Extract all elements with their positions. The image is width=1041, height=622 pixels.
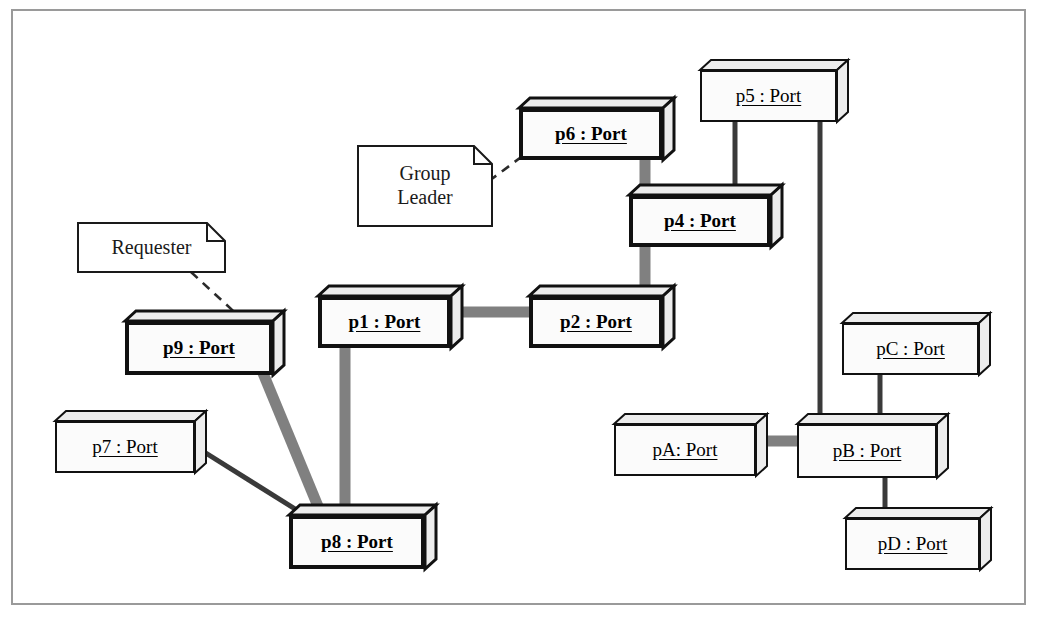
node-top-face-p6	[519, 98, 674, 108]
node-front-face-p2: p2 : Port	[529, 296, 663, 348]
note-requester[interactable]: Requester	[77, 222, 226, 273]
note-group-leader[interactable]: GroupLeader	[357, 145, 493, 227]
node-side-face-p7	[195, 411, 206, 473]
node-top-face-p9	[125, 311, 284, 321]
node-front-face-pA: pA: Port	[614, 424, 756, 476]
node-label-p2: p2 : Port	[560, 312, 632, 332]
node-top-face-pD	[845, 508, 991, 518]
node-top-face-pB	[797, 414, 948, 424]
node-side-face-p9	[273, 311, 284, 375]
node-side-face-pB	[937, 414, 948, 478]
node-front-face-p9: p9 : Port	[125, 321, 273, 375]
port-node-p5[interactable]: p5 : Port	[700, 60, 848, 122]
node-label-p9: p9 : Port	[163, 338, 235, 358]
node-label-p6: p6 : Port	[555, 124, 627, 144]
node-side-face-pC	[979, 313, 990, 375]
node-side-face-p6	[663, 98, 674, 160]
note-shape-group-leader	[357, 145, 493, 227]
node-front-face-p4: p4 : Port	[629, 195, 771, 247]
node-side-face-pA	[756, 414, 767, 476]
port-node-p7[interactable]: p7 : Port	[55, 411, 206, 473]
node-side-face-p8	[425, 505, 436, 569]
node-front-face-p6: p6 : Port	[519, 108, 663, 160]
node-top-face-p7	[55, 411, 206, 421]
port-node-p6[interactable]: p6 : Port	[519, 98, 674, 160]
node-top-face-p4	[629, 185, 782, 195]
node-top-face-pA	[614, 414, 767, 424]
node-label-p5: p5 : Port	[736, 86, 801, 106]
port-node-p1[interactable]: p1 : Port	[318, 286, 462, 348]
node-front-face-p5: p5 : Port	[700, 70, 837, 122]
note-body-requester	[78, 223, 225, 272]
node-label-pB: pB : Port	[833, 441, 902, 461]
node-front-face-p8: p8 : Port	[289, 515, 425, 569]
node-label-pD: pD : Port	[878, 534, 948, 554]
note-shape-requester	[77, 222, 226, 273]
node-side-face-p1	[451, 286, 462, 348]
node-label-pC: pC : Port	[876, 339, 945, 359]
node-label-p1: p1 : Port	[349, 312, 421, 332]
port-node-pC[interactable]: pC : Port	[842, 313, 990, 375]
port-node-p4[interactable]: p4 : Port	[629, 185, 782, 247]
node-side-face-p5	[837, 60, 848, 122]
node-label-p8: p8 : Port	[321, 532, 393, 552]
node-top-face-pC	[842, 313, 990, 323]
port-node-pD[interactable]: pD : Port	[845, 508, 991, 570]
node-front-face-pC: pC : Port	[842, 323, 979, 375]
node-side-face-p4	[771, 185, 782, 247]
node-side-face-p2	[663, 286, 674, 348]
node-label-p4: p4 : Port	[664, 211, 736, 231]
node-top-face-p2	[529, 286, 674, 296]
node-label-pA: pA: Port	[653, 440, 718, 460]
node-front-face-p1: p1 : Port	[318, 296, 451, 348]
node-top-face-p8	[289, 505, 436, 515]
port-node-p8[interactable]: p8 : Port	[289, 505, 436, 569]
diagram-canvas: p6 : Portp5 : Portp4 : Portp1 : Portp2 :…	[0, 0, 1041, 622]
node-front-face-pD: pD : Port	[845, 518, 980, 570]
node-side-face-pD	[980, 508, 991, 570]
port-node-pB[interactable]: pB : Port	[797, 414, 948, 478]
node-front-face-p7: p7 : Port	[55, 421, 195, 473]
node-label-p7: p7 : Port	[92, 437, 157, 457]
port-node-p2[interactable]: p2 : Port	[529, 286, 674, 348]
port-node-p9[interactable]: p9 : Port	[125, 311, 284, 375]
node-top-face-p1	[318, 286, 462, 296]
note-body-group-leader	[358, 146, 492, 226]
node-top-face-p5	[700, 60, 848, 70]
node-front-face-pB: pB : Port	[797, 424, 937, 478]
port-node-pA[interactable]: pA: Port	[614, 414, 767, 476]
